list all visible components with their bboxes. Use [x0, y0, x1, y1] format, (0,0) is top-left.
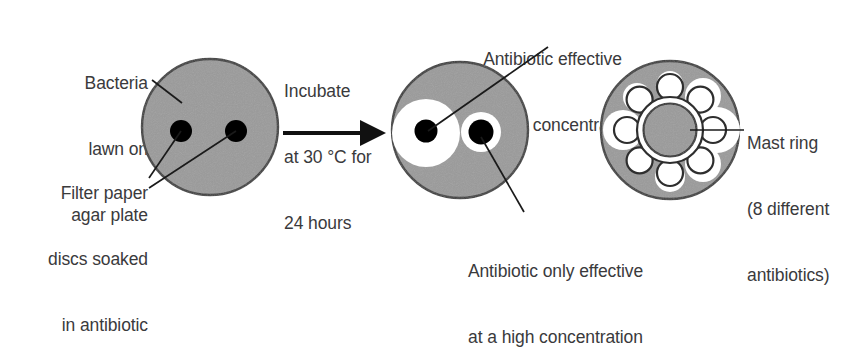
plate-before-incubation — [142, 59, 278, 195]
plate-after-incubation — [392, 62, 528, 198]
high-concentration-label-line2: at a high concentration — [423, 326, 688, 348]
filter-disc-2b — [469, 120, 494, 145]
agar-plate-1 — [142, 59, 278, 195]
arrow-head — [360, 120, 386, 146]
filter-paper-label-line3: in antibiotic — [4, 314, 148, 336]
mast-ring-hub — [644, 104, 697, 157]
filter-disc-2a — [415, 120, 438, 143]
incubation-arrow — [283, 120, 386, 146]
